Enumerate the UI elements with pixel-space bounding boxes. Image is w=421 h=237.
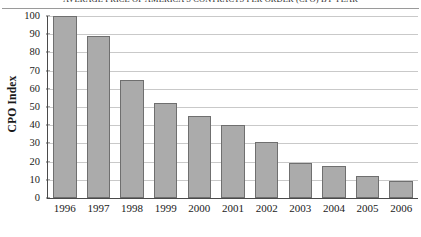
y-tick-label: 20 — [30, 156, 41, 167]
x-tick-label: 2003 — [289, 202, 311, 214]
y-tick-label: 90 — [30, 29, 41, 40]
bar-1997 — [87, 36, 111, 198]
x-tick-label: 2005 — [357, 202, 379, 214]
y-tick-label: 0 — [35, 193, 40, 204]
bar-2000 — [188, 116, 212, 198]
bar-2006 — [389, 181, 413, 198]
y-tick-label: 60 — [30, 84, 41, 95]
x-tick-label: 1996 — [54, 202, 76, 214]
y-tick-label: 40 — [30, 120, 41, 131]
bar-2002 — [255, 142, 279, 198]
y-tick-label: 80 — [30, 47, 41, 58]
chart-title: AVERAGE PRICE OF AMERICA'S CONTRACTS PER… — [0, 0, 421, 4]
bar-2003 — [289, 163, 313, 198]
x-tick-label: 1999 — [155, 202, 177, 214]
x-tick-label: 2004 — [323, 202, 345, 214]
x-tick-label: 1997 — [87, 202, 109, 214]
x-axis-labels: 1996199719981999200020012002200320042005… — [48, 202, 418, 220]
x-tick-label: 2000 — [188, 202, 210, 214]
x-tick-label: 1998 — [121, 202, 143, 214]
bar-1999 — [154, 103, 178, 198]
x-tick-label: 2006 — [390, 202, 412, 214]
bar-1996 — [53, 16, 77, 198]
y-tick-label: 30 — [30, 138, 41, 149]
title-divider — [2, 8, 419, 9]
chart-title-strip: AVERAGE PRICE OF AMERICA'S CONTRACTS PER… — [0, 0, 421, 6]
bar-2001 — [221, 125, 245, 198]
x-axis-line — [47, 198, 418, 199]
bar-series — [48, 16, 418, 198]
x-tick-label: 2001 — [222, 202, 244, 214]
cpo-index-bar-chart: CPO Index 0102030405060708090100 1996199… — [0, 12, 421, 237]
y-tick-label: 70 — [30, 65, 41, 76]
y-tick-label: 100 — [24, 11, 40, 22]
x-tick-label: 2002 — [256, 202, 278, 214]
bar-2005 — [356, 176, 380, 198]
y-tick-label: 10 — [30, 175, 41, 186]
bar-2004 — [322, 166, 346, 198]
bar-1998 — [120, 80, 144, 198]
y-axis-ticks: 0102030405060708090100 — [0, 16, 46, 198]
y-tick-label: 50 — [30, 102, 41, 113]
